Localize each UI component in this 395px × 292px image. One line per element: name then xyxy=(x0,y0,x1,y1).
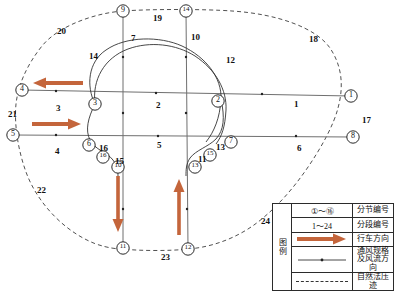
section-node-label-5: 5 xyxy=(4,130,22,138)
legend-symbol-circled-range: ①～⑯ xyxy=(292,204,353,217)
legend-symbol-dashed-line xyxy=(292,273,353,290)
legend-title: 图例 xyxy=(277,238,288,256)
airway-vertical-right xyxy=(186,11,188,249)
segment-label-19: 19 xyxy=(153,14,162,23)
segment-label-4: 4 xyxy=(55,147,60,156)
legend-title-cell: 图例 xyxy=(273,204,292,290)
airway-main-lower xyxy=(13,135,353,137)
section-node-label-1: 1 xyxy=(342,91,360,99)
segment-label-10: 10 xyxy=(191,33,200,42)
legend-label-traffic-direction: 行车方向 xyxy=(353,233,393,246)
legend-row-airflow: 通风规格及风流方向 xyxy=(292,247,393,273)
section-node-label-4: 4 xyxy=(13,85,31,93)
legend-label-airflow: 通风规格及风流方向 xyxy=(353,247,393,272)
segment-label-23: 23 xyxy=(161,253,170,262)
arrow-down-left xyxy=(113,176,124,232)
legend-label-section-number: 分节编号 xyxy=(353,204,393,217)
segment-label-11: 11 xyxy=(198,155,207,164)
section-node-label-12: 12 xyxy=(179,244,197,251)
legend-row-natural-pressure: 自然法压迹 xyxy=(292,273,393,290)
legend-row-segment-number: 1～24 分段编号 xyxy=(292,218,393,232)
segment-label-20: 20 xyxy=(57,27,66,36)
section-node-label-6: 6 xyxy=(80,140,98,148)
legend-symbol-airway-line xyxy=(292,247,353,272)
segment-label-6: 6 xyxy=(297,144,302,153)
segment-label-22: 22 xyxy=(37,186,46,195)
section-node-label-8: 8 xyxy=(344,132,362,140)
segment-label-18: 18 xyxy=(309,35,318,44)
dashed-line-icon xyxy=(296,281,348,282)
segment-label-21: 21 xyxy=(8,110,17,119)
section-node-label-2: 2 xyxy=(209,96,227,104)
segment-label-14: 14 xyxy=(89,52,98,61)
section-node-label-9: 9 xyxy=(114,6,132,14)
segment-label-7: 7 xyxy=(131,34,136,43)
airway-line-icon xyxy=(295,255,349,265)
legend-symbol-traffic-arrow xyxy=(292,233,353,246)
legend-row-traffic-direction: 行车方向 xyxy=(292,233,393,247)
segment-label-24: 24 xyxy=(261,217,270,226)
ventilation-loop-outer xyxy=(90,39,221,142)
arrow-up-right xyxy=(174,179,185,235)
section-node-label-14: 14 xyxy=(177,6,195,13)
ventilation-network-diagram: 12345678910111213141516 1234567101112131… xyxy=(0,0,395,292)
section-node-label-3: 3 xyxy=(86,99,104,107)
section-node-label-16: 16 xyxy=(94,152,112,159)
traffic-arrow-icon xyxy=(295,233,349,245)
legend-symbol-plain-range: 1～24 xyxy=(292,218,353,231)
segment-label-15: 15 xyxy=(115,157,124,166)
legend-label-natural-pressure: 自然法压迹 xyxy=(353,273,393,290)
legend-rows: ①～⑯ 分节编号 1～24 分段编号 行车方向 xyxy=(292,204,393,290)
segment-label-3: 3 xyxy=(56,104,61,113)
legend-label-segment-number: 分段编号 xyxy=(353,218,393,231)
segment-label-5: 5 xyxy=(157,141,162,150)
segment-label-17: 17 xyxy=(362,116,371,125)
segment-label-2: 2 xyxy=(156,101,161,110)
legend-row-section-number: ①～⑯ 分节编号 xyxy=(292,204,393,218)
legend-table: 图例 ①～⑯ 分节编号 1～24 分段编号 行车方向 xyxy=(272,203,394,291)
segment-label-16: 16 xyxy=(99,144,108,153)
section-node-label-11: 11 xyxy=(114,243,132,250)
segment-label-12: 12 xyxy=(226,56,235,65)
arrow-right-lower xyxy=(32,119,81,130)
segment-label-1: 1 xyxy=(294,100,299,109)
segment-label-13: 13 xyxy=(216,143,225,152)
ventilation-loop-inner xyxy=(95,45,227,144)
arrow-left-upper xyxy=(33,78,83,89)
